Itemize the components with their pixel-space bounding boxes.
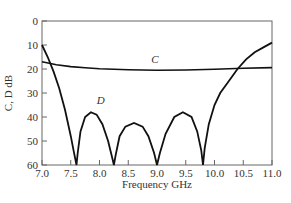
x-tick-label: 10.0 xyxy=(205,167,225,179)
y-tick-label: 0 xyxy=(33,15,39,27)
x-tick-label: 7.0 xyxy=(35,167,49,179)
x-tick-label: 8.0 xyxy=(93,167,107,179)
y-tick-label: 50 xyxy=(27,135,39,147)
series-c-label: C xyxy=(151,53,159,65)
x-tick-label: 11.0 xyxy=(263,167,282,179)
y-tick-label: 30 xyxy=(27,87,39,99)
y-axis: 0102030405060 xyxy=(27,15,47,171)
y-tick-label: 20 xyxy=(27,63,39,75)
plot-frame xyxy=(42,21,272,165)
x-tick-label: 7.5 xyxy=(64,167,78,179)
y-tick-label: 40 xyxy=(27,111,39,123)
chart: 0102030405060 7.07.58.08.59.09.510.010.5… xyxy=(0,0,291,203)
x-axis-label: Frequency GHz xyxy=(122,178,192,190)
x-tick-label: 10.5 xyxy=(234,167,254,179)
y-tick-label: 10 xyxy=(27,39,39,51)
y-axis-label: C, D dB xyxy=(2,75,14,111)
x-axis: 7.07.58.08.59.09.510.010.511.0 xyxy=(35,160,282,179)
series-d-label: D xyxy=(96,94,105,106)
